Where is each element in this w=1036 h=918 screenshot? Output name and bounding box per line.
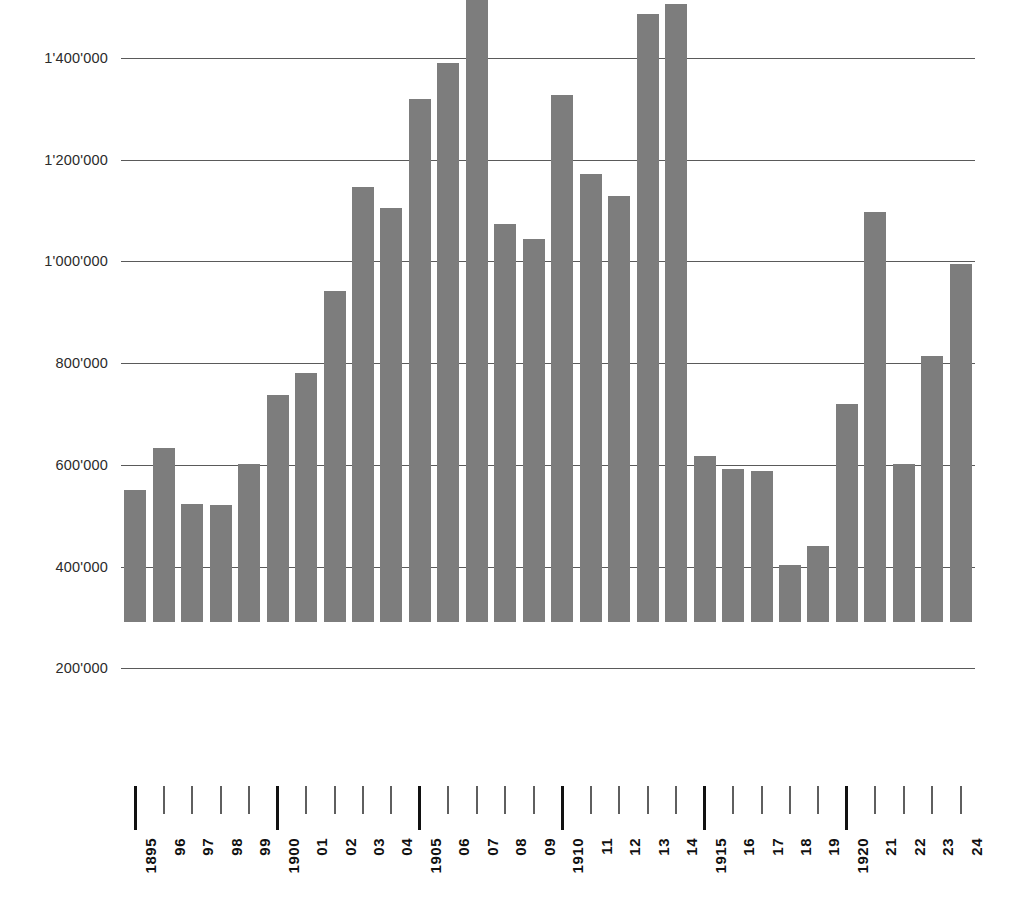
y-axis-tick-label: 400'000: [55, 559, 108, 575]
x-axis-tick-label: 04: [398, 838, 415, 856]
bar: [751, 471, 773, 622]
x-axis-minor-tick: [362, 786, 364, 814]
x-axis-major-tick: [418, 786, 421, 830]
x-axis-tick-label: 01: [313, 838, 330, 856]
x-axis-minor-tick: [533, 786, 535, 814]
x-axis-tick-label: 19: [825, 838, 842, 856]
x-axis-tick-label: 1905: [427, 838, 444, 873]
bar: [807, 546, 829, 622]
x-axis-tick-label: 96: [171, 838, 188, 856]
y-axis-tick-label: 1'000'000: [44, 253, 108, 269]
x-axis-tick-label: 14: [683, 838, 700, 856]
x-axis-minor-tick: [960, 786, 962, 814]
bar: [352, 187, 374, 622]
x-axis-tick-label: 23: [939, 838, 956, 856]
x-axis-minor-tick: [647, 786, 649, 814]
x-axis-minor-tick: [447, 786, 449, 814]
bar: [722, 469, 744, 622]
x-axis-tick-label: 24: [968, 838, 985, 856]
bars-layer: [121, 0, 975, 770]
x-axis-tick-label: 99: [256, 838, 273, 856]
x-axis-tick-label: 11: [598, 838, 615, 855]
bar: [921, 356, 943, 622]
bar: [665, 4, 687, 622]
bar: [694, 456, 716, 622]
x-axis-tick-label: 09: [541, 838, 558, 856]
bar: [153, 448, 175, 622]
x-axis-tick-label: 98: [228, 838, 245, 856]
x-axis-major-tick: [561, 786, 564, 830]
x-axis-minor-tick: [504, 786, 506, 814]
x-axis-minor-tick: [874, 786, 876, 814]
x-axis-tick-label: 12: [626, 838, 643, 856]
x-axis-minor-tick: [732, 786, 734, 814]
y-axis-tick-label: 600'000: [55, 457, 108, 473]
bar: [437, 63, 459, 622]
y-axis-tick-label: 800'000: [55, 355, 108, 371]
bar: [466, 0, 488, 622]
x-axis-tick-label: 13: [655, 838, 672, 856]
x-axis-tick-label: 1900: [285, 838, 302, 873]
y-axis-labels: 200'000400'000600'000800'0001'000'0001'2…: [0, 0, 108, 918]
x-axis-tick-label: 1910: [569, 838, 586, 873]
x-axis-tick-label: 1920: [854, 838, 871, 873]
bar: [864, 212, 886, 622]
x-axis-minor-tick: [334, 786, 336, 814]
x-axis-major-tick: [134, 786, 137, 830]
x-axis-minor-tick: [789, 786, 791, 814]
x-axis-minor-tick: [590, 786, 592, 814]
x-axis-minor-tick: [675, 786, 677, 814]
x-axis-tick-label: 18: [797, 838, 814, 856]
x-axis-minor-tick: [931, 786, 933, 814]
bar: [637, 14, 659, 622]
x-axis-tick-label: 07: [484, 838, 501, 856]
bar: [494, 224, 516, 622]
x-axis-minor-tick: [618, 786, 620, 814]
bar: [523, 239, 545, 622]
x-axis-major-tick: [276, 786, 279, 830]
bar: [551, 95, 573, 622]
bar: [836, 404, 858, 622]
x-axis-major-tick: [845, 786, 848, 830]
y-axis-tick-label: 1'200'000: [44, 152, 108, 168]
x-axis-tick-label: 02: [342, 838, 359, 856]
bar: [124, 490, 146, 622]
x-axis-tick-label: 06: [455, 838, 472, 856]
x-axis-tick-label: 08: [512, 838, 529, 856]
x-axis-minor-tick: [390, 786, 392, 814]
x-axis-tick-label: 97: [199, 838, 216, 856]
x-axis-minor-tick: [761, 786, 763, 814]
x-axis-minor-tick: [248, 786, 250, 814]
x-axis: 1895969798991900010203041905060708091910…: [121, 770, 975, 918]
x-axis-minor-tick: [903, 786, 905, 814]
bar: [238, 464, 260, 622]
bar: [267, 395, 289, 622]
x-axis-tick-label: 22: [911, 838, 928, 856]
x-axis-tick-label: 1895: [142, 838, 159, 873]
bar: [380, 208, 402, 622]
x-axis-tick-label: 16: [740, 838, 757, 856]
x-axis-minor-tick: [817, 786, 819, 814]
bar: [409, 99, 431, 622]
y-axis-tick-label: 1'400'000: [44, 50, 108, 66]
x-axis-minor-tick: [163, 786, 165, 814]
x-axis-major-tick: [703, 786, 706, 830]
bar: [295, 373, 317, 622]
x-axis-tick-label: 1915: [712, 838, 729, 873]
bar: [580, 174, 602, 622]
bar: [324, 291, 346, 622]
x-axis-minor-tick: [305, 786, 307, 814]
bar: [608, 196, 630, 622]
x-axis-minor-tick: [476, 786, 478, 814]
bar: [779, 565, 801, 622]
x-axis-tick-label: 17: [769, 838, 786, 856]
x-axis-tick-label: 03: [370, 838, 387, 856]
x-axis-tick-label: 21: [882, 838, 899, 856]
y-axis-tick-label: 200'000: [55, 660, 108, 676]
x-axis-minor-tick: [220, 786, 222, 814]
bar: [210, 505, 232, 622]
x-axis-minor-tick: [191, 786, 193, 814]
bar: [950, 264, 972, 622]
bar-chart: 200'000400'000600'000800'0001'000'0001'2…: [0, 0, 1036, 918]
bar: [893, 464, 915, 622]
